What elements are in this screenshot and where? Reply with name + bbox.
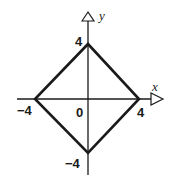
tick-label-y-top: 4 bbox=[75, 35, 82, 48]
y-axis-arrow-icon bbox=[82, 12, 94, 21]
x-axis-arrow-icon bbox=[151, 93, 163, 105]
coordinate-plot bbox=[0, 0, 170, 182]
tick-label-x-left: −4 bbox=[17, 104, 32, 117]
diagram-canvas: y x 4 4 −4 0 −4 bbox=[0, 0, 170, 182]
tick-label-x-right: 4 bbox=[137, 106, 144, 119]
y-axis-label: y bbox=[99, 9, 105, 22]
x-axis-label: x bbox=[152, 80, 158, 93]
tick-label-y-bottom: −4 bbox=[65, 157, 80, 170]
origin-label: 0 bbox=[76, 106, 83, 119]
